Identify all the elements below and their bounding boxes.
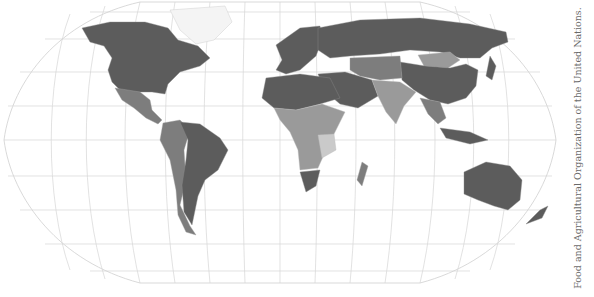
continents xyxy=(82,6,548,235)
china xyxy=(400,62,478,104)
greenland xyxy=(170,6,232,44)
world-map xyxy=(0,0,560,297)
brazil-argentina xyxy=(180,122,228,225)
indonesia xyxy=(440,128,488,144)
japan xyxy=(486,56,496,80)
credit-label: Food and Agricultural Organization of th… xyxy=(572,7,583,288)
russia xyxy=(318,18,508,58)
credit-text: Food and Agricultural Organization of th… xyxy=(566,6,588,289)
north-africa xyxy=(262,74,340,110)
madagascar xyxy=(357,162,368,186)
europe xyxy=(276,26,322,74)
india-south-asia xyxy=(372,80,416,124)
australia xyxy=(464,162,522,210)
